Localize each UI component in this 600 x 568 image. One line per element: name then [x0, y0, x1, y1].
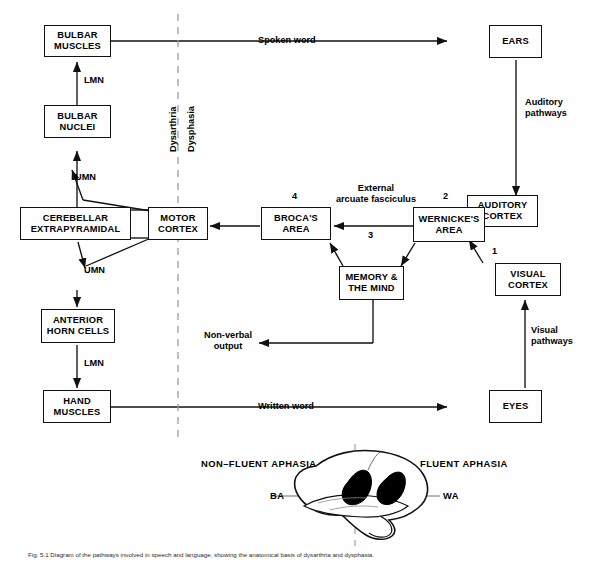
label-umn-lower: UMN — [84, 265, 105, 276]
label-ba-axis: BA — [270, 490, 284, 501]
node-bulbar-muscles[interactable]: BULBAR MUSCLES — [44, 25, 111, 57]
label-spoken-word: Spoken word — [258, 35, 316, 46]
node-memory-and-the-mind[interactable]: MEMORY & THE MIND — [339, 266, 404, 300]
label-fluent-aphasia: FLUENT APHASIA — [420, 458, 508, 469]
node-ears[interactable]: EARS — [489, 25, 542, 58]
node-label: BROCA'S AREA — [274, 213, 318, 235]
label-written-word: Written word — [258, 401, 314, 412]
label-dysphasia: Dysphasia — [186, 106, 196, 152]
node-motor-cortex[interactable]: MOTOR CORTEX — [148, 207, 208, 240]
node-cerebellar-extrapyramidal[interactable]: CEREBELLAR EXTRAPYRAMIDAL — [20, 207, 131, 240]
node-label: EYES — [503, 401, 529, 412]
label-non-fluent-aphasia: NON–FLUENT APHASIA — [201, 458, 317, 469]
edge-memory-to-broca — [330, 243, 343, 266]
node-eyes[interactable]: EYES — [489, 390, 542, 423]
label-umn-upper: UMN — [75, 172, 96, 183]
node-bulbar-nuclei[interactable]: BULBAR NUCLEI — [44, 105, 111, 138]
step-number-3: 3 — [368, 230, 373, 240]
node-label: WERNICKE'S AREA — [418, 214, 479, 236]
label-auditory-pathways: Auditory pathways — [525, 97, 567, 119]
label-visual-pathways: Visual pathways — [531, 325, 573, 347]
node-brocas-area[interactable]: BROCA'S AREA — [261, 207, 331, 240]
node-hand-muscles[interactable]: HAND MUSCLES — [43, 390, 111, 423]
node-label: MOTOR CORTEX — [158, 213, 198, 235]
node-label: MEMORY & THE MIND — [345, 272, 397, 294]
label-wa-axis: WA — [443, 490, 459, 501]
edge-wernicke-to-memory — [401, 243, 415, 266]
node-label: HAND MUSCLES — [54, 396, 101, 418]
label-non-verbal-output: Non-verbal output — [198, 330, 258, 352]
node-label: BULBAR MUSCLES — [54, 30, 101, 52]
label-external-arcuate-fasciculus: External arcuate fasciculus — [316, 183, 436, 205]
node-wernickes-area[interactable]: WERNICKE'S AREA — [413, 207, 485, 242]
step-number-2: 2 — [443, 191, 448, 201]
node-label: VISUAL CORTEX — [508, 269, 548, 291]
step-number-1: 1 — [492, 246, 497, 256]
label-dysarthria: Dysarthria — [168, 107, 178, 152]
node-label: CEREBELLAR EXTRAPYRAMIDAL — [31, 213, 121, 235]
node-label: BULBAR NUCLEI — [57, 111, 97, 133]
node-label: ANTERIOR HORN CELLS — [47, 315, 109, 337]
node-visual-cortex[interactable]: VISUAL CORTEX — [495, 263, 561, 296]
label-lmn-lower: LMN — [84, 358, 104, 369]
node-label: AUDITORY CORTEX — [478, 200, 528, 222]
figure-canvas: BULBAR MUSCLES BULBAR NUCLEI CEREBELLAR … — [0, 0, 600, 568]
edge-motor-to-umn-lower — [86, 238, 151, 266]
node-anterior-horn-cells[interactable]: ANTERIOR HORN CELLS — [41, 309, 115, 343]
edge-visual-to-wernicke — [469, 240, 483, 263]
label-lmn-upper: LMN — [84, 75, 104, 86]
step-number-4: 4 — [292, 191, 297, 201]
figure-caption: Fig. 5.1 Diagram of the pathways involve… — [28, 551, 588, 566]
node-label: EARS — [502, 36, 529, 47]
